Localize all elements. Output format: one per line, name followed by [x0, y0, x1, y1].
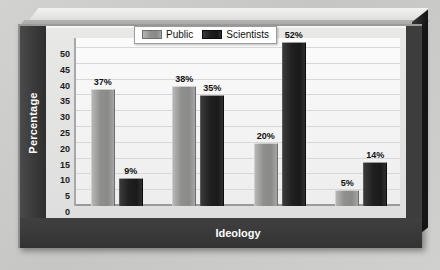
y-tick-label: 50 — [60, 50, 70, 59]
y-tick-label: 20 — [60, 144, 70, 153]
plot-panel: 05101520253035404550 37%9%38%35%20%52%5%… — [46, 26, 406, 220]
bar-value-label: 9% — [124, 166, 137, 176]
y-tick-label: 25 — [60, 129, 70, 138]
bar-value-label: 52% — [285, 30, 303, 40]
bar-value-label: 37% — [94, 77, 112, 87]
legend-label-public: Public — [166, 29, 193, 40]
bar-public-liberal — [254, 143, 278, 206]
y-tick-label: 30 — [60, 113, 70, 122]
y-tick-label: 40 — [60, 81, 70, 90]
y-axis-ticks: 05101520253035404550 — [46, 44, 72, 200]
chart-canvas: Percentage 05101520253035404550 37%9%38%… — [0, 0, 440, 270]
bar-public-very-liberal — [335, 190, 359, 206]
chart-plate: Percentage 05101520253035404550 37%9%38%… — [18, 24, 422, 248]
legend-label-scientists: Scientists — [226, 29, 269, 40]
legend-item-public: Public — [142, 29, 193, 40]
legend-swatch-public — [142, 30, 162, 39]
y-tick-label: 10 — [60, 176, 70, 185]
bar-scientists-liberal — [282, 42, 306, 206]
bar-scientists-conservative — [119, 178, 143, 206]
y-axis-title-band: Percentage — [20, 26, 46, 220]
bar-value-label: 14% — [366, 150, 384, 160]
y-tick-label: 35 — [60, 97, 70, 106]
y-tick-label: 0 — [65, 208, 70, 217]
x-axis-title-band: Ideology — [20, 218, 422, 248]
plot-area: 37%9%38%35%20%52%5%14% — [74, 38, 400, 206]
y-tick-label: 5 — [65, 192, 70, 201]
bar-value-label: 38% — [175, 74, 193, 84]
bar-scientists-moderate — [200, 95, 224, 206]
bar-value-label: 20% — [257, 131, 275, 141]
bar-value-label: 5% — [341, 178, 354, 188]
bar-scientists-very-liberal — [363, 162, 387, 206]
y-axis-title: Percentage — [27, 92, 39, 153]
chart-legend: Public Scientists — [134, 26, 277, 44]
y-tick-label: 45 — [60, 65, 70, 74]
x-axis-title: Ideology — [181, 227, 260, 239]
legend-swatch-scientists — [202, 30, 222, 39]
legend-item-scientists: Scientists — [202, 29, 269, 40]
bar-series-container: 37%9%38%35%20%52%5%14% — [76, 38, 400, 206]
bar-public-conservative — [91, 89, 115, 206]
bar-public-moderate — [172, 86, 196, 206]
y-tick-label: 15 — [60, 160, 70, 169]
bar-value-label: 35% — [203, 83, 221, 93]
